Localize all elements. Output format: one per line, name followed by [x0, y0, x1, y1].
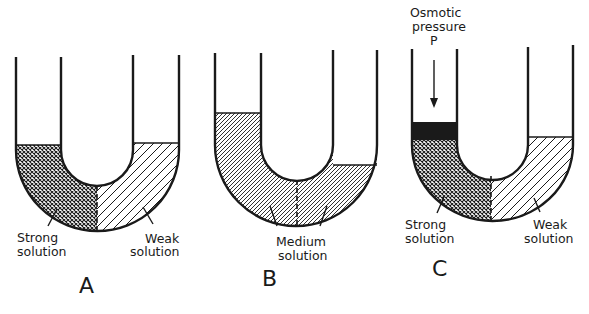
strong-solution-label: Strong [17, 230, 58, 245]
weak-solution-label: Weak [533, 217, 568, 232]
u-tube-inner-wall [457, 47, 528, 180]
medium-solution-label: Medium [276, 234, 326, 249]
u-tube-inner-wall [261, 50, 333, 181]
weak-solution-label-2: solution [130, 244, 180, 259]
panel-label-b: B [262, 266, 277, 291]
strong-solution-label-2: solution [405, 231, 455, 246]
panel-label-c: C [432, 256, 447, 281]
panel-a: Strong solution Weak solution A [16, 55, 180, 298]
panel-c: Osmotic pressure P Strong solution Weak … [405, 5, 574, 281]
osmotic-pressure-label-2: pressure [412, 19, 466, 34]
osmosis-diagram: Strong solution Weak solution A Medium s… [0, 0, 589, 314]
weak-solution-label-2: solution [524, 231, 574, 246]
medium-solution-label-2: solution [278, 248, 328, 263]
panel-label-a: A [79, 273, 94, 298]
pressure-symbol: P [430, 33, 438, 48]
u-tube-inner-wall [61, 55, 133, 186]
strong-solution-label: Strong [405, 217, 446, 232]
osmotic-pressure-label: Osmotic [410, 5, 462, 20]
medium-solution-fill [215, 113, 377, 226]
pressure-piston [412, 122, 457, 140]
panel-b: Medium solution B [215, 50, 377, 291]
strong-solution-label-2: solution [17, 244, 67, 259]
